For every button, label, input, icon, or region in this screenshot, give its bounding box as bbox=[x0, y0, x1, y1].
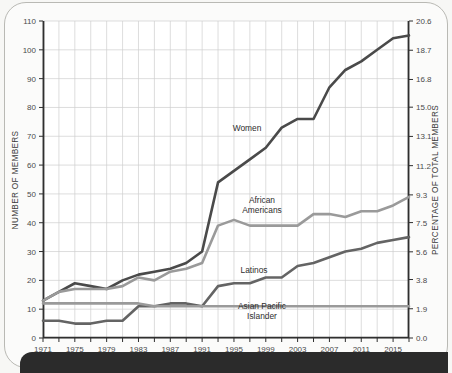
tick-label-left: 110 bbox=[23, 17, 36, 26]
chart-svg: 0102030405060708090100110 0.01.93.85.67.… bbox=[0, 0, 452, 373]
tick-label-bottom: 2015 bbox=[384, 345, 402, 354]
tick-label-bottom: 1971 bbox=[34, 345, 52, 354]
tick-label-right: 13.1 bbox=[416, 132, 432, 141]
tick-label-left: 20 bbox=[27, 276, 36, 285]
tick-label-right: 7.5 bbox=[416, 219, 428, 228]
tick-label-bottom: 1999 bbox=[257, 345, 275, 354]
plot-background bbox=[43, 21, 409, 338]
tick-label-right: 0.0 bbox=[416, 334, 428, 343]
tick-label-right: 3.8 bbox=[416, 276, 428, 285]
tick-label-bottom: 1991 bbox=[193, 345, 211, 354]
y-axis-left-title: NUMBER OF MEMBERS bbox=[11, 130, 20, 229]
tick-label-right: 20.6 bbox=[416, 17, 432, 26]
tick-label-bottom: 1987 bbox=[161, 345, 179, 354]
tick-label-right: 1.9 bbox=[416, 305, 428, 314]
tick-label-left: 90 bbox=[27, 75, 36, 84]
tick-label-left: 10 bbox=[27, 305, 36, 314]
tick-label-right: 15.0 bbox=[416, 103, 432, 112]
tick-label-bottom: 1975 bbox=[66, 345, 84, 354]
y-axis-right-ticks bbox=[409, 21, 413, 338]
chart-page: 0102030405060708090100110 0.01.93.85.67.… bbox=[0, 0, 452, 373]
x-axis-ticks bbox=[43, 338, 409, 342]
y-axis-right-tick-labels: 0.01.93.85.67.59.311.213.115.016.818.720… bbox=[416, 17, 432, 343]
tick-label-left: 100 bbox=[23, 46, 37, 55]
latinos-series-label: Latinos bbox=[240, 265, 267, 275]
tick-label-right: 5.6 bbox=[416, 248, 428, 257]
african-americans-series-label-line1: African bbox=[249, 195, 275, 205]
y-axis-right-title: PERCENTAGE OF TOTAL MEMBERS bbox=[431, 105, 440, 255]
tick-label-right: 16.8 bbox=[416, 75, 432, 84]
tick-label-left: 40 bbox=[27, 219, 36, 228]
tick-label-left: 70 bbox=[27, 132, 36, 141]
asian-pacific-islander-series-label-line2: Islander bbox=[247, 311, 277, 321]
tick-label-left: 50 bbox=[27, 190, 36, 199]
tick-label-bottom: 1979 bbox=[98, 345, 116, 354]
tick-label-left: 0 bbox=[32, 334, 37, 343]
line-chart: 0102030405060708090100110 0.01.93.85.67.… bbox=[0, 0, 452, 373]
tick-label-bottom: 2003 bbox=[289, 345, 307, 354]
y-axis-left-tick-labels: 0102030405060708090100110 bbox=[23, 17, 37, 343]
tick-label-bottom: 1983 bbox=[130, 345, 148, 354]
tick-label-bottom: 2011 bbox=[353, 345, 371, 354]
tick-label-right: 18.7 bbox=[416, 46, 432, 55]
tick-label-right: 11.2 bbox=[416, 162, 432, 171]
asian-pacific-islander-series-label-line1: Asian Pacific bbox=[238, 301, 286, 311]
tick-label-left: 80 bbox=[27, 103, 36, 112]
women-series-label: Women bbox=[233, 123, 262, 133]
x-axis-tick-labels: 1971197519791983198719911995199920032007… bbox=[34, 345, 402, 354]
tick-label-left: 30 bbox=[27, 248, 36, 257]
tick-label-right: 9.3 bbox=[416, 191, 428, 200]
tick-label-bottom: 1995 bbox=[225, 345, 243, 354]
y-axis-left-ticks bbox=[39, 21, 43, 338]
african-americans-series-label-line2: Americans bbox=[242, 205, 282, 215]
tick-label-bottom: 2007 bbox=[321, 345, 339, 354]
tick-label-left: 60 bbox=[27, 161, 36, 170]
